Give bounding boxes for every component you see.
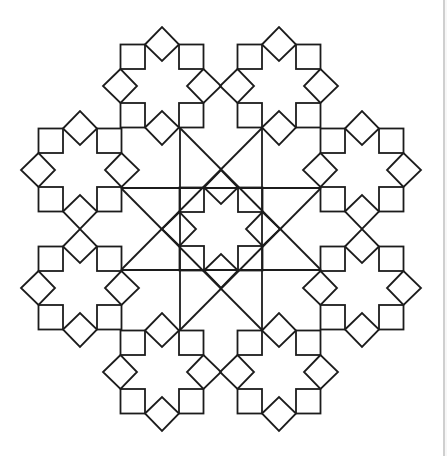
corner-square [179, 389, 204, 414]
diagram-canvas [0, 0, 447, 456]
edge-diamond [145, 27, 179, 61]
edge-diamond [220, 69, 254, 103]
edge-diamond [262, 313, 296, 347]
corner-square [121, 331, 146, 356]
corner-square [179, 103, 204, 128]
corner-square [179, 45, 204, 70]
edge-diamond [145, 397, 179, 431]
edge-diamond [63, 195, 97, 229]
edge-diamond [345, 229, 379, 263]
edge-diamond [387, 271, 421, 305]
star-line [180, 128, 321, 270]
corner-square [238, 103, 263, 128]
corner-square [296, 331, 321, 356]
edge-diamond [21, 271, 55, 305]
geometric-rosette-pattern [0, 0, 447, 456]
edge-diamond [105, 271, 139, 305]
edge-diamond [345, 313, 379, 347]
corner-square [39, 247, 64, 272]
corner-square [97, 129, 122, 154]
rosette-bottom-left [103, 313, 221, 431]
corner-square [238, 389, 263, 414]
edge-diamond [63, 313, 97, 347]
edge-diamond [345, 111, 379, 145]
edge-diamond [345, 195, 379, 229]
edge-diamond [303, 153, 337, 187]
edge-diamond [262, 111, 296, 145]
corner-square [296, 103, 321, 128]
corner-square [179, 331, 204, 356]
edge-diamond [105, 153, 139, 187]
corner-square [97, 187, 122, 212]
edge-diamond [187, 69, 221, 103]
corner-square [296, 45, 321, 70]
central-star-lines [121, 128, 321, 330]
edge-diamond [304, 355, 338, 389]
corner-square [296, 389, 321, 414]
rosette-top-right [220, 27, 338, 145]
rosette-upper-right [303, 111, 421, 229]
corner-square [379, 129, 404, 154]
rosette-lower-right [303, 229, 421, 347]
edge-diamond [387, 153, 421, 187]
corner-square [97, 247, 122, 272]
edge-diamond [262, 397, 296, 431]
edge-diamond [303, 271, 337, 305]
corner-square [39, 187, 64, 212]
edge-diamond [145, 111, 179, 145]
edge-diamond [304, 69, 338, 103]
corner-square [379, 247, 404, 272]
edge-diamond [21, 153, 55, 187]
corner-square [321, 129, 346, 154]
corner-square [39, 305, 64, 330]
star-line [121, 188, 262, 330]
corner-square [321, 247, 346, 272]
edge-diamond [103, 69, 137, 103]
corner-square [379, 305, 404, 330]
rosette-lower-left [21, 229, 139, 347]
corner-square [379, 187, 404, 212]
corner-square [321, 305, 346, 330]
rosette-group [21, 27, 421, 431]
corner-square [238, 331, 263, 356]
edge-diamond [262, 27, 296, 61]
rosette-top-left [103, 27, 221, 145]
corner-square [121, 389, 146, 414]
edge-diamond [187, 355, 221, 389]
corner-square [121, 45, 146, 70]
edge-diamond [246, 212, 280, 246]
edge-diamond [220, 355, 254, 389]
edge-diamond [204, 254, 238, 288]
corner-square [238, 45, 263, 70]
edge-diamond [63, 229, 97, 263]
edge-diamond [63, 111, 97, 145]
edge-diamond [204, 170, 238, 204]
edge-diamond [103, 355, 137, 389]
star-line [180, 188, 321, 330]
corner-square [39, 129, 64, 154]
rosette-bottom-right [220, 313, 338, 431]
rosette-upper-left [21, 111, 139, 229]
page-edge-line [443, 0, 445, 456]
corner-square [97, 305, 122, 330]
edge-diamond [162, 212, 196, 246]
corner-square [121, 103, 146, 128]
corner-square [321, 187, 346, 212]
star-line [121, 128, 262, 270]
edge-diamond [145, 313, 179, 347]
